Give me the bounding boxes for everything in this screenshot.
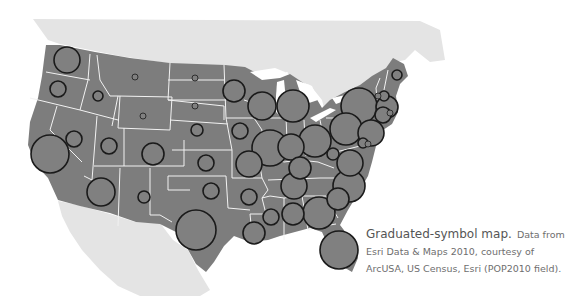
symbol-fl — [320, 231, 358, 269]
symbol-sd — [192, 103, 198, 109]
symbol-al — [282, 203, 304, 225]
symbol-sc — [327, 188, 349, 210]
symbol-nv — [66, 131, 82, 147]
symbol-oh — [299, 125, 331, 157]
symbol-id — [93, 91, 103, 101]
symbol-mo — [236, 151, 262, 177]
symbol-ne — [191, 124, 203, 136]
symbol-ok — [203, 183, 219, 199]
symbol-or — [50, 81, 66, 97]
symbol-in — [278, 134, 304, 160]
caption-line1-rest: Data from — [517, 229, 565, 240]
symbol-ks — [198, 155, 214, 171]
symbol-mt — [132, 74, 138, 80]
symbol-wv — [327, 148, 339, 160]
symbol-vt — [375, 93, 381, 99]
map-caption: Graduated-symbol map. Data from Esri Dat… — [366, 224, 566, 277]
symbol-ms — [263, 209, 279, 225]
symbol-ky — [289, 157, 311, 179]
symbol-tx — [176, 210, 216, 250]
symbol-mn — [223, 80, 245, 102]
caption-line2: Esri Data & Maps 2010, courtesy of — [366, 243, 566, 260]
symbol-va — [337, 150, 363, 176]
symbol-wi — [248, 92, 276, 120]
symbol-ri — [387, 110, 393, 116]
symbol-wy — [140, 113, 146, 119]
symbol-az — [87, 178, 115, 206]
caption-title: Graduated-symbol map. — [366, 227, 512, 241]
symbol-mi — [277, 90, 309, 122]
symbol-me — [392, 70, 402, 80]
symbol-co — [142, 143, 164, 165]
symbol-nd — [192, 75, 198, 81]
symbol-ca — [31, 135, 69, 173]
symbol-nm — [138, 191, 150, 203]
symbol-pa — [330, 113, 362, 145]
symbol-la — [243, 222, 265, 244]
symbol-de — [365, 141, 371, 147]
symbol-wa — [54, 47, 80, 73]
caption-line3: ArcUSA, US Census, Esri (POP2010 field). — [366, 260, 566, 277]
symbol-ia — [232, 123, 248, 139]
symbol-ut — [101, 138, 117, 154]
symbol-ar — [241, 189, 257, 205]
